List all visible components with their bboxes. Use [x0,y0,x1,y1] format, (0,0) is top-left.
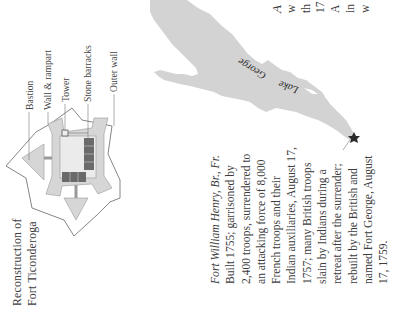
side-text-line: w [359,1,374,13]
bastion-triangle [64,198,88,220]
caption-line: French troops and their [269,147,284,284]
caption-line: Indian auxiliaries, August 17, [284,147,299,284]
caption-line: 1757; many British troops [300,147,315,284]
label-tower: Tower [60,78,71,102]
side-text-line: th [300,1,315,13]
fort-diagram [6,94,120,236]
caption-line: retreat after the surrender; [330,147,345,284]
side-text-clipped: A w th 17 A in w [270,1,374,13]
side-text-line: A [329,1,344,13]
diagram-title: Reconstruction of Fort Ticonderoga [10,218,39,306]
caption-line: 17, 1759. [376,147,391,284]
side-text-line: in [344,1,359,13]
bastion-triangle [22,144,44,180]
diagram-title-line: Fort Ticonderoga [25,218,40,306]
caption-line: slain by Indians during a [315,147,330,284]
caption-line: 2,400 troops, surrendered to [239,147,254,284]
diagram-title-line: Reconstruction of [10,218,25,306]
caption-line: Built 1755; garrisoned by [223,147,238,284]
fort-william-henry-caption: Fort William Henry, Br., Fr. Built 1755;… [208,147,392,284]
label-wall-rampart: Wall & rampart [42,50,53,110]
label-outer-wall: Outer wall [108,51,119,92]
side-text-line: A [270,1,285,13]
side-text-line: 17 [314,1,329,13]
label-bastion: Bastion [24,81,35,110]
caption-line: an attacking force of 8,000 [254,147,269,284]
label-stone-barracks: Stone barracks [82,45,93,102]
caption-line: named Fort George, August [361,147,376,284]
caption-title: Fort William Henry, Br., Fr. [208,147,223,284]
stone-barracks [62,172,86,182]
side-text-line: w [285,1,300,13]
caption-line: rebuilt by the British and [346,147,361,284]
